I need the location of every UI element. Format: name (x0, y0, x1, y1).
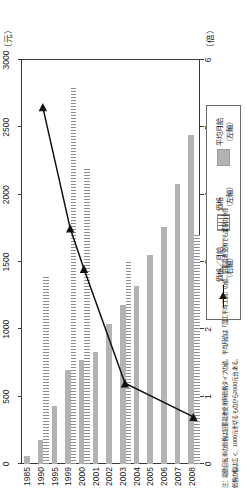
ratio-marker (189, 413, 197, 421)
ratio-marker (66, 224, 74, 232)
footnote-line-1: 注：電動自転車の価格は鉛蓄電池使用時価格タイプの値。平均月給は「国工平均工資」の… (221, 14, 231, 488)
category-label: 2005 (145, 467, 155, 488)
ratio-marker (80, 265, 88, 273)
bottom-axis-unit-label: （倍） (203, 25, 215, 52)
category-label: 2001 (91, 467, 101, 488)
top-tick-label: 3000 (1, 51, 11, 70)
footnote: 注：電動自転車の価格は鉛蓄電池使用時価格タイプの値。平均月給は「国工平均工資」の… (221, 14, 243, 488)
top-axis-unit-label: （元） (1, 25, 13, 52)
footnote-line-2: 価格の幅は広く、1000元を切るものから2000元台ある。 (231, 14, 241, 488)
category-label: 2008 (187, 467, 197, 488)
ratio-marker (121, 379, 129, 387)
category-label: 1995 (50, 467, 60, 488)
category-label: 1985 (22, 467, 32, 488)
category-label: 2000 (77, 467, 87, 488)
category-label: 2006 (159, 467, 169, 488)
top-tick-label: 2000 (1, 185, 11, 204)
category-label: 2002 (104, 467, 114, 488)
top-tick-label: 500 (1, 390, 11, 404)
category-label: 2003 (118, 467, 128, 488)
top-tick-label: 0 (1, 462, 11, 467)
bottom-tick-label: 0 (203, 462, 213, 467)
category-label: 1999 (63, 467, 73, 488)
bottom-tick-label: 1 (203, 394, 213, 399)
top-tick-label: 1500 (1, 253, 11, 272)
bottom-tick-label: 2 (203, 327, 213, 332)
ratio-marker (39, 103, 47, 111)
category-label: 2004 (132, 467, 142, 488)
bottom-tick-label: 6 (203, 58, 213, 63)
category-label: 2007 (173, 467, 183, 488)
top-tick-label: 1000 (1, 320, 11, 339)
top-tick-label: 2500 (1, 118, 11, 137)
plot-area: 050010001500200025003000 0123456 1985199… (22, 60, 200, 464)
category-label: 1990 (36, 467, 46, 488)
chart-figure: 050010001500200025003000 0123456 1985199… (0, 0, 245, 488)
ratio-polyline (43, 107, 194, 417)
ratio-line-series (22, 60, 200, 464)
rotated-figure-wrapper: 050010001500200025003000 0123456 1985199… (0, 0, 245, 488)
